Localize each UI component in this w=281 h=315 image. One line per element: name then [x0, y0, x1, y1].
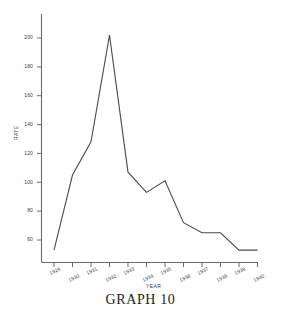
- y-axis-title: RATE: [14, 125, 19, 140]
- rate-data-line: [54, 35, 258, 250]
- y-tick-label: 140: [17, 122, 33, 127]
- x-axis-title: YEAR: [146, 284, 161, 289]
- line-chart-svg: [0, 0, 281, 292]
- y-tick-label: 200: [17, 35, 33, 40]
- y-axis-ticks: [37, 38, 42, 240]
- plot-area: 200 180 160 140 120 100 80 60 1929 1930 …: [0, 0, 281, 292]
- y-tick-label: 100: [17, 180, 33, 185]
- y-tick-label: 160: [17, 93, 33, 98]
- graph-caption: GRAPH 10: [0, 292, 281, 307]
- x-axis-ticks: [54, 263, 258, 268]
- y-tick-label: 120: [17, 151, 33, 156]
- graph-figure: 200 180 160 140 120 100 80 60 1929 1930 …: [0, 0, 281, 315]
- y-tick-label: 80: [17, 208, 33, 213]
- y-tick-label: 180: [17, 64, 33, 69]
- y-tick-label: 60: [17, 237, 33, 242]
